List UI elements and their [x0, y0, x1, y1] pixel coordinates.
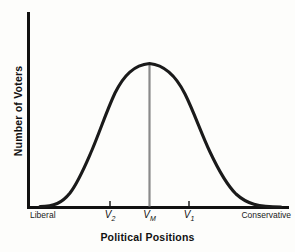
tick-label-v1-base: V — [184, 209, 191, 220]
x-axis-label-liberal: Liberal — [30, 210, 56, 220]
y-axis-title: Number of Voters — [12, 41, 24, 181]
tick-label-vm-base: V — [143, 209, 150, 220]
tick-label-v2: V2 — [105, 209, 116, 222]
tick-label-v1-sub: 1 — [190, 215, 194, 222]
tick-label-v1: V1 — [184, 209, 195, 222]
chart-figure: Number of Voters Political Positions Lib… — [0, 0, 295, 252]
bell-curve-path — [40, 64, 281, 208]
tick-label-v2-sub: 2 — [111, 215, 115, 222]
x-axis-label-conservative: Conservative — [241, 210, 291, 220]
x-axis-title: Political Positions — [0, 231, 295, 243]
tick-label-v2-base: V — [105, 209, 112, 220]
tick-label-vm: VM — [143, 209, 156, 222]
tick-label-vm-sub: M — [150, 215, 156, 222]
